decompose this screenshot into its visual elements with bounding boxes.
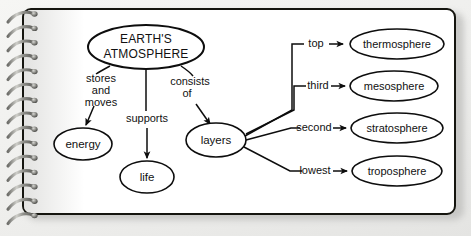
binding-coil-ring [31, 184, 37, 189]
binding-coil-wire [8, 99, 33, 109]
binding-coil-wire [8, 199, 33, 209]
binding-coil-ring [31, 11, 37, 16]
spiral-binding [0, 4, 64, 232]
binding-coil-wire [8, 55, 33, 65]
binding-coil-wire [8, 84, 33, 94]
binding-coil-ring [31, 112, 37, 117]
screenshot-stage: EARTH'S ATMOSPHERE energy life layers th… [0, 0, 471, 236]
binding-coil-wire [8, 41, 33, 51]
binding-coil-ring [31, 83, 37, 88]
binding-coil-ring [31, 170, 37, 175]
binding-coil-ring [31, 127, 37, 132]
binding-coil-wire [8, 156, 33, 166]
binding-coil-ring [31, 213, 37, 218]
binding-coil-ring [31, 199, 37, 204]
binding-coil-wire [8, 171, 33, 181]
binding-coil-wire [8, 142, 33, 152]
binding-coil-wire [8, 214, 33, 224]
notebook-page [22, 8, 456, 215]
binding-coils [8, 11, 38, 223]
binding-coil-wire [8, 127, 33, 137]
binding-coil-wire [8, 27, 33, 37]
binding-coil-ring [31, 69, 37, 74]
binding-coil-wire [8, 185, 33, 195]
binding-coil-ring [31, 155, 37, 160]
page-gradient-tint [24, 10, 454, 213]
binding-coil-wire [8, 113, 33, 123]
binding-coil-wire [8, 70, 33, 80]
binding-coil-wire [8, 12, 33, 22]
binding-coil-ring [31, 141, 37, 146]
binding-coil-ring [31, 26, 37, 31]
binding-coil-ring [31, 55, 37, 60]
binding-coil-ring [31, 98, 37, 103]
binding-coil-ring [31, 40, 37, 45]
